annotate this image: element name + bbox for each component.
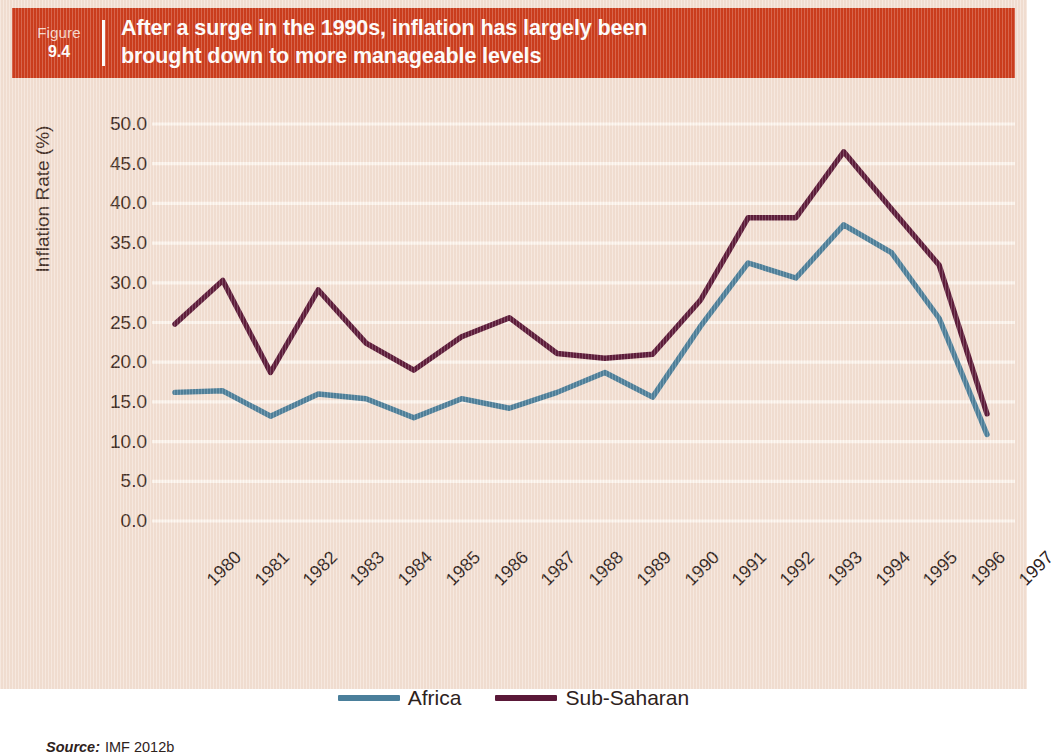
y-axis-tick: 5.0 — [47, 470, 147, 492]
chart-area: Inflation Rate (%) 50.045.040.035.030.02… — [12, 84, 1015, 679]
figure-number-block: Figure 9.4 — [12, 25, 98, 62]
y-axis-tick: 45.0 — [47, 153, 147, 175]
figure-number: 9.4 — [20, 43, 98, 61]
figure-banner: Figure 9.4 After a surge in the 1990s, i… — [12, 8, 1015, 78]
legend-swatch — [338, 695, 400, 701]
y-axis-tick: 10.0 — [47, 431, 147, 453]
legend-label: Africa — [408, 686, 462, 710]
y-axis-tick: 30.0 — [47, 272, 147, 294]
y-axis-tick: 20.0 — [47, 351, 147, 373]
y-axis-tick: 0.0 — [47, 510, 147, 532]
plot-region: 1980198119821983198419851986198719881989… — [152, 84, 1015, 679]
x-axis-tick: 1997 — [1015, 547, 1055, 590]
y-axis-tick: 40.0 — [47, 192, 147, 214]
chart-legend: AfricaSub-Saharan — [12, 686, 1015, 710]
banner-divider — [102, 20, 105, 66]
source-note: Source:IMF 2012b — [46, 739, 174, 755]
source-label: Source: — [46, 739, 100, 755]
y-axis-tick: 35.0 — [47, 232, 147, 254]
legend-label: Sub-Saharan — [565, 686, 689, 710]
legend-item[interactable]: Sub-Saharan — [495, 686, 689, 710]
figure-title-line-2: brought down to more manageable levels — [121, 43, 647, 71]
legend-swatch — [495, 695, 557, 701]
y-axis-tick: 25.0 — [47, 312, 147, 334]
figure-title-line-1: After a surge in the 1990s, inflation ha… — [121, 15, 647, 43]
figure-label: Figure — [20, 25, 98, 42]
y-axis-tick-labels: 50.045.040.035.030.025.020.015.010.05.00… — [42, 84, 147, 679]
figure-title: After a surge in the 1990s, inflation ha… — [121, 15, 659, 70]
y-axis-tick: 15.0 — [47, 391, 147, 413]
source-value: IMF 2012b — [105, 739, 174, 755]
legend-item[interactable]: Africa — [338, 686, 462, 710]
y-axis-tick: 50.0 — [47, 113, 147, 135]
